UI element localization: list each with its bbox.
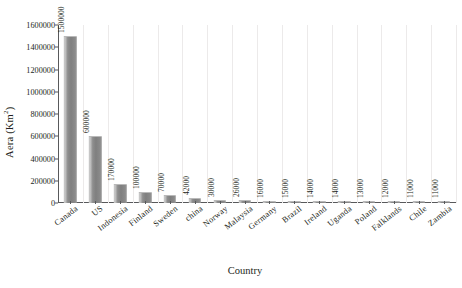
bar-value-label: 70000	[157, 173, 166, 192]
bar-chart: Aera (Km2) 02000004000006000008000001000…	[0, 0, 462, 288]
plot-area: 1500000600000170000100000700004200030000…	[58, 25, 456, 203]
bar-group[interactable]: 16000	[257, 25, 282, 203]
x-axis-tick-mark	[120, 201, 121, 204]
y-axis-tick-label: 1600000	[26, 21, 55, 30]
bar-group[interactable]: 170000	[108, 25, 133, 203]
bar-group[interactable]: 14000	[307, 25, 332, 203]
y-axis-tick-label: 600000	[30, 132, 55, 141]
bar-value-label: 1500000	[57, 7, 66, 34]
bar-group[interactable]: 11000	[406, 25, 431, 203]
x-axis-tick-label: Zambia	[426, 204, 453, 228]
bar-group[interactable]: 26000	[232, 25, 257, 203]
y-axis-tick-label: 1000000	[26, 87, 55, 96]
bar-value-label: 13000	[356, 179, 365, 198]
y-axis-tick-label: 800000	[30, 110, 55, 119]
y-axis-tick-label: 400000	[30, 154, 55, 163]
bar-value-label: 42000	[182, 176, 191, 195]
x-axis-tick-mark	[170, 201, 171, 204]
x-axis-tick-label: Canada	[53, 204, 80, 228]
x-axis-tick-label: Uganda	[326, 204, 353, 228]
x-axis-tick-mark	[444, 201, 445, 204]
bar-group[interactable]: 30000	[207, 25, 232, 203]
bar-value-label: 11000	[431, 180, 440, 199]
bar-value-label: 100000	[132, 166, 141, 189]
x-axis-tick-mark	[220, 201, 221, 204]
x-axis-tick-mark	[245, 201, 246, 204]
bar-value-label: 170000	[107, 158, 116, 181]
bar-group[interactable]: 15000	[282, 25, 307, 203]
x-axis-tick-mark	[95, 201, 96, 204]
y-axis-title-superscript: 2	[3, 110, 11, 114]
bar-value-label: 12000	[381, 179, 390, 198]
bar-group[interactable]: 70000	[158, 25, 183, 203]
x-axis-tick-mark	[294, 201, 295, 204]
bar-value-label: 11000	[406, 180, 415, 199]
bar-value-label: 26000	[232, 178, 241, 197]
bar-value-label: 14000	[306, 179, 315, 198]
bar[interactable]	[64, 36, 76, 203]
bar-group[interactable]: 11000	[431, 25, 456, 203]
y-axis-tick-labels: 0200000400000600000800000100000012000001…	[18, 25, 58, 203]
x-axis-tick-label: Brazil	[281, 204, 304, 225]
x-axis-title: Country	[0, 265, 462, 276]
bar-group[interactable]: 42000	[182, 25, 207, 203]
x-axis-tick-mark	[394, 201, 395, 204]
x-axis-tick-label: Sweden	[152, 204, 180, 229]
bar-group[interactable]: 1500000	[58, 25, 83, 203]
bar-value-label: 600000	[82, 110, 91, 133]
y-axis-title: Aera (Km2)	[0, 86, 18, 178]
x-axis-tick-mark	[419, 201, 420, 204]
x-axis-tick-mark	[344, 201, 345, 204]
bar-group[interactable]: 13000	[357, 25, 382, 203]
x-axis-tick-label: US	[90, 204, 104, 218]
bar-value-label: 16000	[256, 179, 265, 198]
bar-group[interactable]: 14000	[332, 25, 357, 203]
x-axis-title-text: Country	[200, 265, 262, 276]
y-axis-tick-label: 1200000	[26, 65, 55, 74]
x-axis-tick-labels: CanadaUSIndonesiaFinlandSwedenchinaNorwa…	[58, 204, 456, 262]
x-axis-tick-label: Ireland	[303, 204, 329, 227]
x-axis-tick-mark	[269, 201, 270, 204]
bar-value-label: 30000	[207, 178, 216, 197]
x-axis-tick-mark	[195, 201, 196, 204]
bar-group[interactable]: 600000	[83, 25, 108, 203]
x-axis-tick-label: Finland	[127, 204, 154, 228]
gridline	[456, 25, 457, 203]
bar-group[interactable]: 100000	[133, 25, 158, 203]
bar-value-label: 14000	[331, 179, 340, 198]
y-axis-tick-label: 200000	[30, 176, 55, 185]
bars-layer: 1500000600000170000100000700004200030000…	[58, 25, 456, 203]
y-axis-title-text: Aera (Km	[4, 114, 15, 158]
x-axis-tick-mark	[369, 201, 370, 204]
bar-value-label: 15000	[281, 179, 290, 198]
y-axis-title-suffix: )	[4, 106, 15, 110]
y-axis-tick-label: 1400000	[26, 43, 55, 52]
bar[interactable]	[89, 136, 101, 203]
x-axis-tick-mark	[145, 201, 146, 204]
x-axis-tick-mark	[319, 201, 320, 204]
bar-group[interactable]: 12000	[381, 25, 406, 203]
x-axis-tick-mark	[70, 201, 71, 204]
